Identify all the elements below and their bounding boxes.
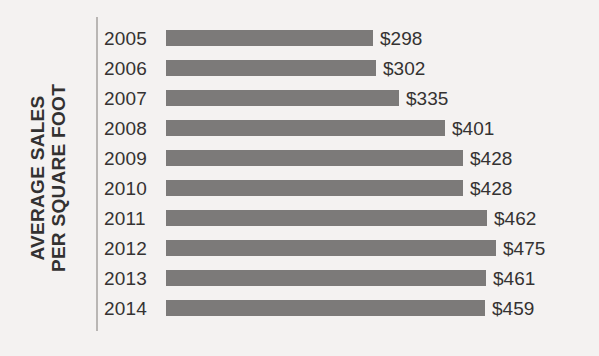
bar-category-label: 2012 bbox=[104, 239, 166, 258]
bar-value-label: $401 bbox=[452, 119, 494, 138]
bar-category-label: 2014 bbox=[104, 299, 166, 318]
bar-category-label: 2009 bbox=[104, 149, 166, 168]
bar-value-label: $335 bbox=[406, 89, 448, 108]
bar-value-label: $302 bbox=[383, 59, 425, 78]
bar-value-label: $298 bbox=[380, 29, 422, 48]
bar-fill bbox=[166, 150, 463, 166]
bar-fill bbox=[166, 300, 485, 316]
bar-row: 2006$302 bbox=[104, 56, 599, 80]
bar-row: 2014$459 bbox=[104, 296, 599, 320]
y-axis-title-text: AVERAGE SALES PER SQUARE FOOT bbox=[26, 84, 69, 272]
bar-row: 2008$401 bbox=[104, 116, 599, 140]
bar-fill bbox=[166, 210, 487, 226]
bar-fill bbox=[166, 180, 463, 196]
bar-fill bbox=[166, 270, 486, 286]
bar-row: 2007$335 bbox=[104, 86, 599, 110]
bar-value-label: $459 bbox=[492, 299, 534, 318]
plot-area: 2005$2982006$3022007$3352008$4012009$428… bbox=[104, 26, 599, 326]
bar-value-label: $475 bbox=[503, 239, 545, 258]
bar-value-label: $428 bbox=[470, 149, 512, 168]
bar-track: $401 bbox=[166, 116, 599, 140]
bar-fill bbox=[166, 90, 399, 106]
bar-value-label: $461 bbox=[493, 269, 535, 288]
bar-track: $335 bbox=[166, 86, 599, 110]
bar-category-label: 2006 bbox=[104, 59, 166, 78]
bar-category-label: 2005 bbox=[104, 29, 166, 48]
bar-track: $462 bbox=[166, 206, 599, 230]
bar-track: $298 bbox=[166, 26, 599, 50]
y-axis-title-line-2: PER SQUARE FOOT bbox=[48, 84, 69, 272]
bar-track: $475 bbox=[166, 236, 599, 260]
bar-category-label: 2013 bbox=[104, 269, 166, 288]
bar-fill bbox=[166, 30, 373, 46]
bar-category-label: 2008 bbox=[104, 119, 166, 138]
y-axis-title: AVERAGE SALES PER SQUARE FOOT bbox=[0, 0, 95, 356]
bar-category-label: 2007 bbox=[104, 89, 166, 108]
bar-category-label: 2010 bbox=[104, 179, 166, 198]
bar-row: 2012$475 bbox=[104, 236, 599, 260]
bar-value-label: $428 bbox=[470, 179, 512, 198]
bar-chart-figure: AVERAGE SALES PER SQUARE FOOT 2005$29820… bbox=[0, 0, 599, 356]
bar-value-label: $462 bbox=[494, 209, 536, 228]
bar-row: 2011$462 bbox=[104, 206, 599, 230]
bar-fill bbox=[166, 60, 376, 76]
bar-row: 2009$428 bbox=[104, 146, 599, 170]
bar-row: 2010$428 bbox=[104, 176, 599, 200]
bar-track: $428 bbox=[166, 146, 599, 170]
bar-track: $459 bbox=[166, 296, 599, 320]
bar-category-label: 2011 bbox=[104, 209, 166, 228]
bar-track: $428 bbox=[166, 176, 599, 200]
axis-divider-line bbox=[96, 17, 98, 331]
bar-fill bbox=[166, 240, 496, 256]
bar-track: $302 bbox=[166, 56, 599, 80]
y-axis-title-line-1: AVERAGE SALES bbox=[26, 84, 47, 272]
bar-row: 2005$298 bbox=[104, 26, 599, 50]
bar-track: $461 bbox=[166, 266, 599, 290]
bar-row: 2013$461 bbox=[104, 266, 599, 290]
bar-fill bbox=[166, 120, 445, 136]
